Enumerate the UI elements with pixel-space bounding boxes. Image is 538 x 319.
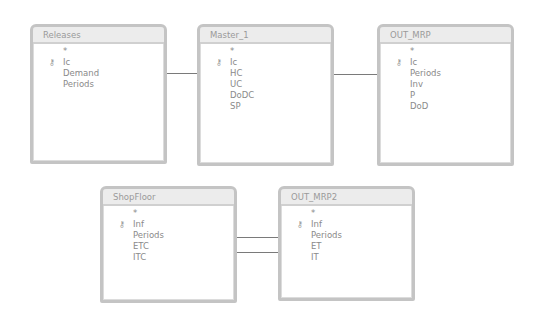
field-label: Ic [410,57,417,67]
table-shopfloor[interactable]: ShopFloor * ⚷Inf Periods ETC ITC [100,186,237,303]
field-label: Ic [230,57,237,67]
field-list: * ⚷Ic Periods Inv P DoD [380,44,511,112]
table-releases[interactable]: Releases * ⚷Ic Demand Periods [30,24,167,164]
field-et[interactable]: ET [281,241,412,252]
key-icon: ⚷ [297,219,303,230]
field-label: * [230,46,234,56]
field-label: * [63,46,67,56]
field-label: Inv [410,79,423,89]
table-out-mrp[interactable]: OUT_MRP * ⚷Ic Periods Inv P DoD [377,24,514,166]
field-label: Periods [63,79,94,89]
field-periods[interactable]: Periods [380,68,511,79]
field-label: DoD [410,101,428,111]
field-ic[interactable]: ⚷Ic [200,57,331,68]
field-ic[interactable]: ⚷Ic [33,57,164,68]
relationship-shopfloor-out-mrp2-periods[interactable] [237,252,278,253]
field-list: * ⚷Inf Periods ET IT [281,206,412,263]
table-title[interactable]: OUT_MRP [380,27,511,44]
field-periods[interactable]: Periods [281,230,412,241]
field-periods[interactable]: Periods [33,79,164,90]
field-label: * [311,208,315,218]
field-all[interactable]: * [200,46,331,57]
table-title[interactable]: Releases [33,27,164,44]
field-p[interactable]: P [380,90,511,101]
table-title[interactable]: ShopFloor [103,189,234,206]
field-inv[interactable]: Inv [380,79,511,90]
relationship-master-out-mrp[interactable] [334,74,377,75]
key-icon: ⚷ [119,219,125,230]
field-ic[interactable]: ⚷Ic [380,57,511,68]
field-sp[interactable]: SP [200,101,331,112]
field-all[interactable]: * [281,208,412,219]
key-icon: ⚷ [49,57,55,68]
field-label: ETC [133,241,149,251]
key-icon: ⚷ [396,57,402,68]
field-label: Periods [410,68,441,78]
field-uc[interactable]: UC [200,79,331,90]
field-label: Periods [133,230,164,240]
field-all[interactable]: * [380,46,511,57]
field-inf[interactable]: ⚷Inf [103,219,234,230]
field-label: ET [311,241,322,251]
field-list: * ⚷Ic HC UC DoDC SP [200,44,331,112]
field-etc[interactable]: ETC [103,241,234,252]
field-itc[interactable]: ITC [103,252,234,263]
field-it[interactable]: IT [281,252,412,263]
field-label: IT [311,252,319,262]
field-label: Periods [311,230,342,240]
field-inf[interactable]: ⚷Inf [281,219,412,230]
field-label: P [410,90,415,100]
table-out-mrp2[interactable]: OUT_MRP2 * ⚷Inf Periods ET IT [278,186,415,301]
field-label: * [410,46,414,56]
field-demand[interactable]: Demand [33,68,164,79]
relationship-releases-master[interactable] [167,73,197,74]
field-dod[interactable]: DoD [380,101,511,112]
field-label: DoDC [230,90,254,100]
field-list: * ⚷Inf Periods ETC ITC [103,206,234,263]
field-all[interactable]: * [33,46,164,57]
field-label: * [133,208,137,218]
field-dodc[interactable]: DoDC [200,90,331,101]
field-hc[interactable]: HC [200,68,331,79]
table-title[interactable]: Master_1 [200,27,331,44]
field-periods[interactable]: Periods [103,230,234,241]
field-label: Ic [63,57,70,67]
table-title[interactable]: OUT_MRP2 [281,189,412,206]
key-icon: ⚷ [216,57,222,68]
field-label: Demand [63,68,99,78]
field-label: ITC [133,252,146,262]
relationship-shopfloor-out-mrp2-inf[interactable] [237,237,278,238]
field-all[interactable]: * [103,208,234,219]
table-master[interactable]: Master_1 * ⚷Ic HC UC DoDC SP [197,24,334,166]
field-list: * ⚷Ic Demand Periods [33,44,164,90]
field-label: UC [230,79,242,89]
field-label: SP [230,101,241,111]
field-label: HC [230,68,242,78]
field-label: Inf [133,219,144,229]
field-label: Inf [311,219,322,229]
